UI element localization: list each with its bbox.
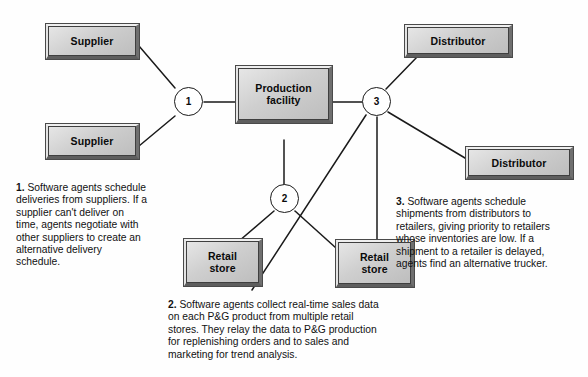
node-distributor-top-label: Distributor: [428, 35, 489, 47]
caption-1-text: Software agents schedule deliveries from…: [16, 182, 147, 267]
knot-marker-2-label: 2: [282, 193, 288, 204]
caption-3: 3. Software agents schedule shipments fr…: [396, 196, 572, 270]
node-retail-store-left-label-line1: Retail: [205, 250, 240, 262]
knot-marker-3-label: 3: [374, 96, 380, 107]
link-knot3-to-distributor-top: [386, 56, 418, 89]
node-retail-store-left-label-line2: store: [206, 262, 238, 274]
caption-1-number: 1.: [16, 182, 25, 193]
knot-marker-3[interactable]: 3: [362, 87, 391, 116]
caption-3-text: Software agents schedule shipments from …: [396, 196, 550, 269]
node-production-facility-label-line2: facility: [263, 94, 303, 106]
link-supplier-top-to-knot1: [139, 46, 175, 88]
knot-marker-1-label: 1: [186, 96, 192, 107]
node-retail-store-left[interactable]: Retail store: [184, 239, 262, 286]
node-supplier-top[interactable]: Supplier: [46, 24, 139, 59]
node-retail-store-right-label-line2: store: [358, 263, 390, 275]
caption-2-number: 2.: [168, 299, 177, 310]
node-distributor-bottom-label: Distributor: [489, 157, 550, 169]
node-retail-store-right-label-line1: Retail: [357, 251, 392, 263]
node-supplier-bottom[interactable]: Supplier: [46, 124, 139, 159]
node-distributor-bottom[interactable]: Distributor: [466, 147, 573, 179]
caption-1: 1. Software agents schedule deliveries f…: [16, 182, 148, 269]
knot-marker-1[interactable]: 1: [174, 87, 203, 116]
diagram-canvas: Supplier Supplier Production facility Di…: [0, 0, 588, 377]
link-knot2-to-retail-right: [295, 211, 336, 248]
node-production-facility-label-line1: Production: [252, 82, 314, 94]
knot-marker-2[interactable]: 2: [270, 184, 299, 213]
node-supplier-bottom-label: Supplier: [68, 135, 117, 147]
caption-2-text: Software agents collect real-time sales …: [168, 299, 379, 360]
link-supplier-bottom-to-knot1: [139, 116, 175, 146]
caption-3-number: 3.: [396, 196, 405, 207]
node-production-facility[interactable]: Production facility: [236, 66, 332, 123]
link-knot3-to-distributor-bottom: [388, 112, 470, 161]
caption-2: 2. Software agents collect real-time sal…: [168, 299, 380, 361]
node-supplier-top-label: Supplier: [68, 35, 117, 47]
node-distributor-top[interactable]: Distributor: [405, 25, 512, 57]
